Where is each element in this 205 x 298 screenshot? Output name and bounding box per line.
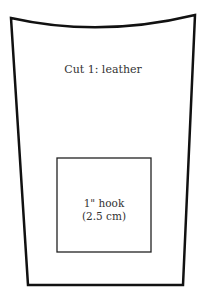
hook-size-metric-label: (2.5 cm) (82, 210, 126, 222)
pattern-diagram: Cut 1: leather 1" hook (2.5 cm) (0, 0, 205, 298)
pattern-piece-outline (11, 15, 195, 285)
pattern-piece-label: Cut 1: leather (64, 63, 142, 76)
hook-size-label: 1" hook (84, 197, 125, 209)
